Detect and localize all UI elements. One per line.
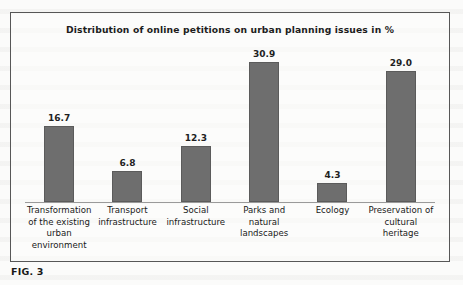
category-label: Ecology — [298, 205, 366, 217]
bar-series: 16.7 6.8 12.3 30.9 4.3 29.0 — [25, 43, 435, 202]
category-labels: Transformation of the existing urban env… — [25, 205, 435, 253]
category-label: Transformation of the existing urban env… — [25, 205, 93, 251]
category-label: Transport infrastructure — [93, 205, 161, 228]
bar-group: 16.7 — [25, 43, 93, 202]
figure-caption: FIG. 3 — [11, 266, 44, 277]
bar-value-label: 4.3 — [325, 171, 341, 180]
bar-rect — [181, 146, 211, 202]
bar-value-label: 30.9 — [253, 50, 275, 59]
bar-rect — [386, 71, 416, 202]
bar-group: 30.9 — [230, 43, 298, 202]
bar-value-label: 16.7 — [48, 114, 70, 123]
bar-rect — [112, 171, 142, 202]
bar-rect — [317, 183, 347, 202]
category-axis-line — [25, 202, 435, 203]
bar-group: 29.0 — [367, 43, 435, 202]
bar-rect — [249, 62, 279, 202]
bar-value-label: 12.3 — [185, 134, 207, 143]
bar-group: 4.3 — [298, 43, 366, 202]
category-label: Social infrastructure — [162, 205, 230, 228]
plot-area: 16.7 6.8 12.3 30.9 4.3 29.0 — [25, 43, 435, 253]
bar-group: 6.8 — [93, 43, 161, 202]
category-label: Parks and natural landscapes — [230, 205, 298, 240]
bar-rect — [44, 126, 74, 202]
bar-value-label: 6.8 — [120, 159, 136, 168]
chart-frame: Distribution of online petitions on urba… — [10, 12, 450, 262]
bar-group: 12.3 — [162, 43, 230, 202]
category-label: Preservation of cultural heritage — [367, 205, 435, 240]
chart-title: Distribution of online petitions on urba… — [11, 24, 449, 35]
bar-value-label: 29.0 — [390, 59, 412, 68]
